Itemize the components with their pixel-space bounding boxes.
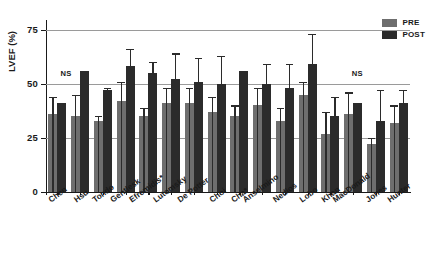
error-bar-cap bbox=[308, 34, 316, 35]
x-tick-cell: Jones bbox=[365, 194, 388, 252]
bar-pre-lutomsky bbox=[162, 23, 171, 192]
x-tick-mark bbox=[353, 192, 354, 195]
bar-post-lobo bbox=[308, 23, 317, 192]
bar-group bbox=[228, 23, 251, 192]
error-bar-cap bbox=[163, 88, 171, 89]
bar-group bbox=[296, 23, 319, 192]
bar-group bbox=[137, 23, 160, 192]
error-bar bbox=[348, 92, 349, 192]
error-bar bbox=[334, 97, 335, 192]
lvef-bar-chart: LVEF (%) NSNS 0255075 ChenHsuTondoGentle… bbox=[0, 0, 433, 253]
error-bar-cap bbox=[140, 108, 148, 109]
error-bar bbox=[143, 108, 144, 193]
x-tick-cell: Nedios bbox=[274, 194, 297, 252]
bar-pre-efremidis bbox=[139, 23, 148, 192]
error-bar-cap bbox=[277, 108, 285, 109]
legend: PRE POST bbox=[382, 18, 425, 39]
error-bar bbox=[371, 138, 372, 192]
legend-item-pre: PRE bbox=[382, 18, 425, 27]
error-bar-cap bbox=[399, 90, 407, 91]
legend-label-pre: PRE bbox=[402, 18, 419, 27]
error-bar-cap bbox=[49, 97, 57, 98]
bar-post-gentlesk bbox=[126, 23, 135, 192]
error-bar bbox=[75, 95, 76, 193]
bar-post-tondo bbox=[103, 23, 112, 192]
y-tick-label-50: 50 bbox=[27, 78, 38, 89]
error-bar-cap bbox=[299, 82, 307, 83]
error-bar-cap bbox=[231, 105, 239, 106]
bar-groups bbox=[46, 23, 410, 192]
bar-post-anselmino bbox=[262, 23, 271, 192]
error-bar-cap bbox=[195, 58, 203, 59]
bar-group bbox=[205, 23, 228, 192]
error-bar-cap bbox=[368, 138, 376, 139]
bar-group bbox=[160, 23, 183, 192]
error-bar bbox=[403, 90, 404, 192]
bar-rect bbox=[239, 71, 248, 192]
bar-group bbox=[319, 23, 342, 192]
bar-group bbox=[92, 23, 115, 192]
error-bar bbox=[121, 82, 122, 193]
legend-swatch-pre bbox=[382, 19, 397, 27]
bar-pre-lobo bbox=[299, 23, 308, 192]
x-tick-cell: Anselmino bbox=[251, 194, 274, 252]
x-tick-cell: Lobo bbox=[296, 194, 319, 252]
bar-group bbox=[46, 23, 69, 192]
error-bar bbox=[189, 88, 190, 192]
bar-pre-nedios bbox=[276, 23, 285, 192]
error-bar bbox=[380, 90, 381, 192]
error-bar bbox=[394, 105, 395, 192]
error-bar-cap bbox=[263, 64, 271, 65]
error-bar bbox=[234, 105, 235, 192]
error-bar-cap bbox=[95, 116, 103, 117]
x-tick-cell: De Potter bbox=[183, 194, 206, 252]
bar-pre-anselmino bbox=[253, 23, 262, 192]
legend-swatch-post bbox=[382, 31, 397, 39]
x-tick-cell: MacDonald bbox=[342, 194, 365, 252]
error-bar-cap bbox=[172, 53, 180, 54]
error-bar bbox=[152, 62, 153, 192]
y-tick-label-75: 75 bbox=[27, 24, 38, 35]
bar-post-choi bbox=[217, 23, 226, 192]
y-axis-title: LVEF (%) bbox=[6, 7, 17, 97]
bar-post-hunter bbox=[399, 23, 408, 192]
bar-pre-hunter bbox=[390, 23, 399, 192]
bar-pre-chen bbox=[48, 23, 57, 192]
bar-pre-depotter bbox=[185, 23, 194, 192]
bar-pre-hsu bbox=[71, 23, 80, 192]
bar-rect bbox=[80, 71, 89, 192]
plot-area: NSNS bbox=[46, 23, 410, 192]
error-bar-cap bbox=[390, 105, 398, 106]
bar-group bbox=[69, 23, 92, 192]
bar-post-chen bbox=[57, 23, 66, 192]
bar-group bbox=[342, 23, 365, 192]
bar-post-efremidis bbox=[148, 23, 157, 192]
error-bar-cap bbox=[186, 88, 194, 89]
error-bar bbox=[257, 88, 258, 192]
error-bar bbox=[221, 56, 222, 193]
bar-group bbox=[183, 23, 206, 192]
bar-pre-gentlesk bbox=[117, 23, 126, 192]
error-bar bbox=[289, 64, 290, 192]
bar-pre-khan bbox=[321, 23, 330, 192]
bar-post-lutomsky bbox=[171, 23, 180, 192]
bar-pre-choi bbox=[208, 23, 217, 192]
bar-pre-cha bbox=[230, 23, 239, 192]
error-bar-cap bbox=[126, 49, 134, 50]
legend-label-post: POST bbox=[402, 30, 425, 39]
bar-pre-tondo bbox=[94, 23, 103, 192]
error-bar bbox=[98, 116, 99, 192]
bar-pre-jones bbox=[367, 23, 376, 192]
bar-post-nedios bbox=[285, 23, 294, 192]
error-bar bbox=[107, 88, 108, 192]
x-tick-cell: Hunter bbox=[387, 194, 410, 252]
error-bar-cap bbox=[117, 82, 125, 83]
error-bar bbox=[166, 88, 167, 192]
bar-pre-macdonald bbox=[344, 23, 353, 192]
x-tick-cell: Hsu bbox=[69, 194, 92, 252]
ns-annotation: NS bbox=[61, 69, 72, 78]
error-bar-cap bbox=[322, 112, 330, 113]
bar-post-depotter bbox=[194, 23, 203, 192]
error-bar-cap bbox=[217, 56, 225, 57]
y-tick-label-0: 0 bbox=[33, 186, 38, 197]
